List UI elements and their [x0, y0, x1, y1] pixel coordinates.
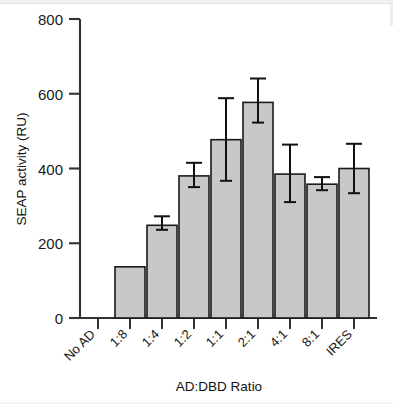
x-tick-label-1-2: 1:2 [171, 327, 194, 350]
y-tick-label-400: 400 [38, 161, 63, 178]
x-axis-ticks [98, 318, 354, 329]
x-tick-label-1-8: 1:8 [107, 327, 130, 350]
y-axis-title: SEAP activity (RU) [14, 112, 29, 225]
x-tick-label-no-ad: No AD [61, 327, 98, 364]
bar-chart-figure: 800 600 400 200 0 SEAP activity (RU) [0, 0, 393, 404]
y-tick-label-0: 0 [55, 310, 63, 327]
y-tick-label-800: 800 [38, 11, 63, 28]
bars-group [115, 102, 369, 318]
x-tick-label-1-4: 1:4 [139, 327, 162, 350]
x-tick-label-8-1: 8:1 [299, 327, 322, 350]
x-axis-title: AD:DBD Ratio [176, 379, 262, 394]
bar-1-8 [115, 267, 145, 318]
x-tick-label-ires: IRES [323, 326, 355, 358]
y-axis-ticks [69, 19, 80, 318]
x-tick-labels: No AD 1:8 1:4 1:2 1:1 2:1 4:1 8:1 IRES [61, 326, 355, 363]
bar-2-1 [243, 102, 273, 318]
bar-1-2 [179, 176, 209, 318]
bar-1-4 [147, 225, 177, 318]
bar-8-1 [307, 184, 337, 318]
y-tick-label-600: 600 [38, 86, 63, 103]
x-tick-label-4-1: 4:1 [267, 327, 290, 350]
x-tick-label-2-1: 2:1 [235, 327, 258, 350]
x-tick-label-1-1: 1:1 [203, 327, 226, 350]
y-tick-label-200: 200 [38, 235, 63, 252]
chart-canvas: 800 600 400 200 0 SEAP activity (RU) [0, 0, 393, 404]
